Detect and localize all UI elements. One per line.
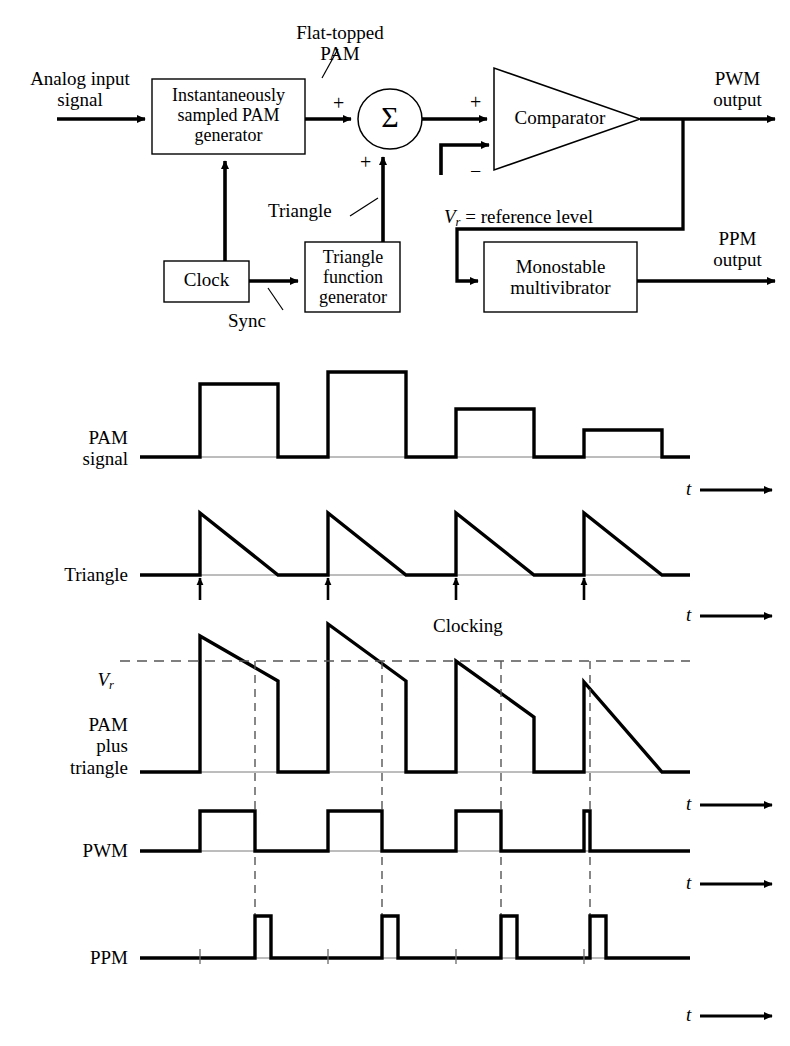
t-axis-label-1: t [686, 478, 691, 499]
flat-topped-pam-label: Flat-topped PAM [270, 22, 410, 65]
ppm-trace [140, 916, 690, 958]
vr-symbol: V [444, 206, 456, 227]
pam-plus-triangle-row-label: PAM plus triangle [10, 714, 128, 778]
triangle-row-label: Triangle [10, 564, 128, 585]
t-axis-label-5: t [686, 1004, 691, 1025]
reference-level-text: = reference level [461, 206, 594, 227]
pwm-output-label: PWM output [690, 68, 785, 111]
clocking-label: Clocking [433, 615, 503, 636]
figure-root: Analog input signal Flat-topped PAM Inst… [0, 0, 790, 1046]
figure-vector-layer [0, 0, 790, 1046]
pam-signal-trace [140, 372, 690, 457]
summer-label[interactable]: Σ [362, 100, 418, 134]
comparator-plus: + [470, 91, 481, 113]
reference-level-label: Vr = reference level [425, 185, 593, 251]
pwm-trace [140, 811, 690, 851]
vr-axis-label: Vr [56, 648, 114, 714]
comparator-label[interactable]: Comparator [497, 107, 623, 128]
t-axis-label-4: t [686, 872, 691, 893]
summer-plus-top: + [333, 92, 344, 114]
vr-axis-subscript: r [109, 678, 114, 692]
triangle-trace [140, 513, 690, 575]
triangle-generator-label[interactable]: Triangle function generator [303, 247, 403, 307]
t-axis-label-2: t [686, 604, 691, 625]
triangle-label-leader [350, 198, 378, 216]
pam-plus-triangle-trace [140, 624, 690, 772]
vr-axis-symbol: V [98, 669, 110, 690]
sync-annotation-label: Sync [228, 310, 266, 331]
ppm-row-label: PPM [10, 947, 128, 968]
pam-generator-label[interactable]: Instantaneously sampled PAM generator [152, 85, 305, 145]
pwm-row-label: PWM [10, 840, 128, 861]
pam-signal-row-label: PAM signal [10, 427, 128, 470]
triangle-annotation-label: Triangle [268, 200, 332, 221]
summer-plus-bottom: + [360, 151, 371, 173]
analog-input-label: Analog input signal [14, 68, 146, 111]
vr-reference-line [441, 145, 489, 175]
clock-label[interactable]: Clock [164, 269, 249, 290]
t-axis-label-3: t [686, 793, 691, 814]
comparator-minus: − [470, 160, 481, 182]
monostable-label[interactable]: Monostable multivibrator [484, 256, 637, 299]
sync-label-leader [268, 288, 283, 310]
ppm-output-label: PPM output [690, 228, 785, 271]
